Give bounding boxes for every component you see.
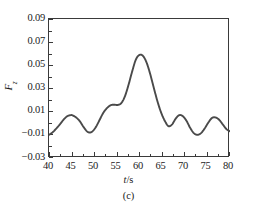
y-axis-title-symbol: F bbox=[2, 84, 14, 91]
chart-figure: 0.09 0.07 0.05 0.03 0.01 −0.01 −0.03 Fz bbox=[0, 0, 257, 210]
x-tick-label-2: 50 bbox=[81, 160, 105, 171]
x-tick-label-0: 40 bbox=[36, 160, 60, 171]
x-tick-label-8: 80 bbox=[216, 160, 240, 171]
y-axis-title: Fz bbox=[2, 69, 17, 103]
x-axis-title-unit: /s bbox=[126, 174, 133, 185]
y-tick-label-0: 0.09 bbox=[1, 13, 45, 24]
panel-caption: (c) bbox=[0, 190, 257, 201]
x-tick-label-1: 45 bbox=[59, 160, 83, 171]
x-tick-label-5: 65 bbox=[149, 160, 173, 171]
y-tick-label-4: 0.01 bbox=[1, 105, 45, 116]
x-tick-label-6: 70 bbox=[171, 160, 195, 171]
x-tick-label-4: 60 bbox=[126, 160, 150, 171]
x-tick-label-7: 75 bbox=[194, 160, 218, 171]
y-tick-label-1: 0.07 bbox=[1, 36, 45, 47]
y-axis-title-subscript: z bbox=[10, 81, 19, 84]
data-curve bbox=[49, 19, 230, 158]
y-tick-label-5: −0.01 bbox=[1, 128, 45, 139]
plot-area bbox=[48, 18, 229, 157]
x-axis-title: t/s bbox=[0, 174, 257, 185]
x-tick-label-3: 55 bbox=[104, 160, 128, 171]
